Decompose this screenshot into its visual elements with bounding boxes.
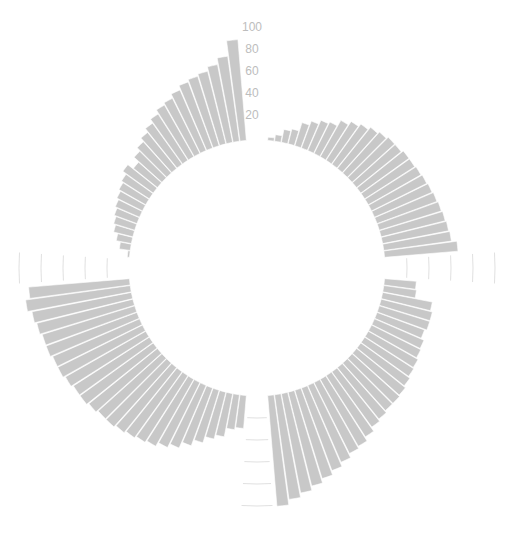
y-tick-label-20: 20 — [245, 108, 259, 122]
y-tick-label-40: 40 — [245, 86, 259, 100]
bar — [268, 137, 275, 141]
y-tick-label-100: 100 — [242, 20, 262, 34]
circular-bar-chart: 100 80 60 40 20 — [0, 0, 514, 533]
bar — [127, 251, 130, 258]
bar — [275, 135, 283, 143]
grid-arc — [242, 505, 273, 506]
bars — [26, 40, 458, 507]
y-tick-label-60: 60 — [245, 64, 259, 78]
grid-arc — [494, 253, 495, 284]
y-axis-labels: 100 80 60 40 20 — [242, 20, 262, 122]
grid-arc — [19, 253, 20, 284]
y-tick-label-80: 80 — [245, 42, 259, 56]
